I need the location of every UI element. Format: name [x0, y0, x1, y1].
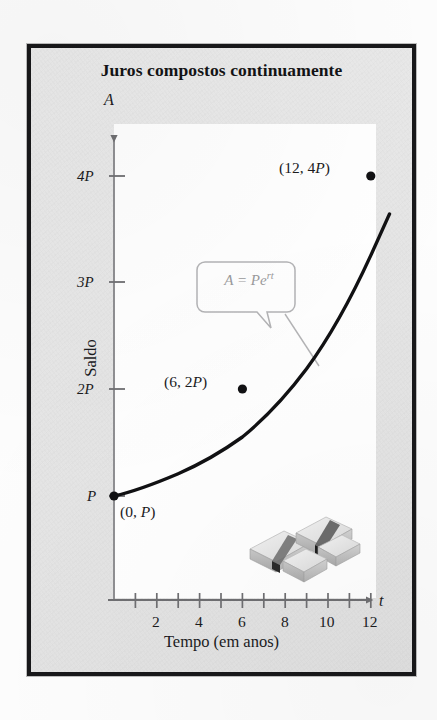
data-point-label-0: (0, P) — [120, 504, 155, 520]
data-point-label-6: (6, 2P) — [164, 374, 207, 390]
x-tick-label-6: 6 — [238, 614, 246, 630]
y-tick-label-4P: 4P — [77, 169, 94, 184]
y-tick-marks — [109, 176, 125, 496]
scanned-page: Juros compostos continuamente — [0, 0, 437, 720]
x-tick-label-12: 12 — [362, 614, 378, 630]
y-tick-label-P: P — [87, 489, 96, 504]
data-point-0 — [109, 491, 118, 500]
curve — [114, 214, 390, 496]
x-tick-label-2: 2 — [152, 614, 160, 630]
figure-frame: Juros compostos continuamente — [27, 44, 416, 676]
data-point-12 — [366, 171, 375, 180]
x-tick-label-10: 10 — [319, 614, 335, 630]
y-axis-symbol: A — [104, 92, 114, 108]
data-point-6 — [238, 384, 247, 393]
y-tick-label-3P: 3P — [77, 275, 94, 290]
x-axis-title: Tempo (em anos) — [31, 632, 412, 652]
x-tick-label-4: 4 — [195, 614, 203, 630]
y-axis-title: Saldo — [81, 298, 101, 418]
figure-interior: Juros compostos continuamente — [31, 48, 412, 672]
x-tick-label-8: 8 — [281, 614, 289, 630]
x-axis-symbol: t — [379, 593, 383, 609]
exponential-curve-path — [114, 389, 242, 496]
formula-callout-label: A = Pert — [203, 270, 295, 289]
exponential-curve — [114, 389, 242, 496]
data-point-label-12: (12, 4P) — [279, 160, 330, 176]
